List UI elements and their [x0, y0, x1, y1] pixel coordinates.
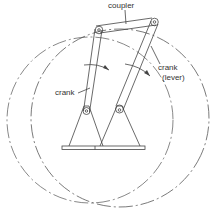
lever-label-line1: crank	[158, 63, 179, 72]
base-plate	[62, 146, 145, 150]
crank-leader-line	[78, 88, 90, 93]
crank-label: crank	[55, 88, 76, 97]
coupler-label: coupler	[108, 1, 135, 10]
coupler-link	[95, 18, 158, 34]
four-bar-linkage-diagram: coupler crank crank (lever)	[0, 0, 210, 212]
crank-link	[83, 29, 102, 115]
lever-label-line2: (lever)	[162, 73, 185, 82]
right-support	[100, 106, 140, 146]
lever-leader-line	[151, 46, 160, 64]
